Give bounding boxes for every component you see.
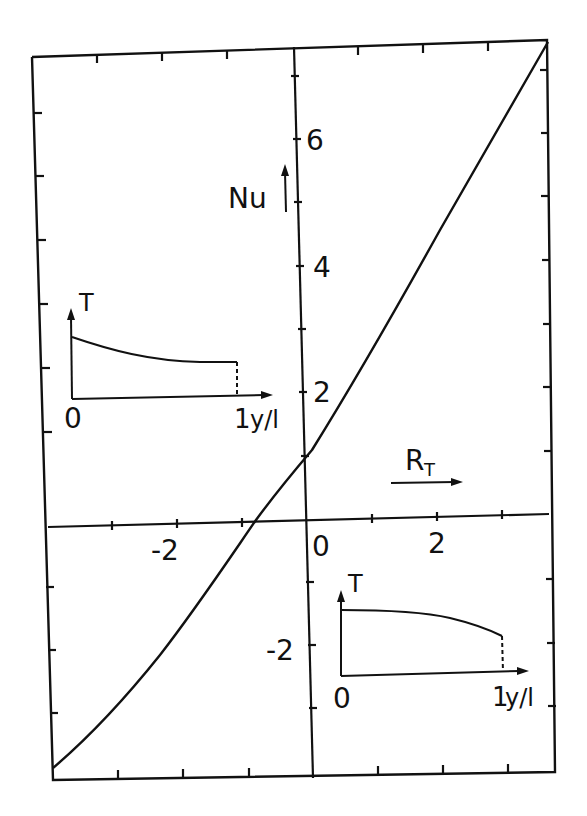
inset-lr-y-arrow-icon bbox=[337, 590, 345, 602]
y-tick-4: 4 bbox=[313, 251, 331, 284]
nu-arrow-icon bbox=[281, 164, 289, 212]
inset-lower-right: T 0 1 y/l bbox=[333, 570, 534, 715]
y-axis-label: Nu bbox=[228, 182, 267, 215]
x-tick-0: 0 bbox=[312, 530, 330, 563]
plot-frame bbox=[32, 40, 555, 780]
svg-text:y/l: y/l bbox=[250, 406, 279, 434]
y-tick-2: 2 bbox=[313, 376, 331, 409]
x-tick-2: 2 bbox=[428, 527, 446, 560]
nu-curve bbox=[53, 42, 548, 768]
x-axis bbox=[48, 510, 549, 530]
left-ticks bbox=[34, 113, 58, 713]
svg-text:R: R bbox=[405, 444, 424, 477]
svg-text:T: T bbox=[423, 459, 436, 480]
svg-text:y/l: y/l bbox=[505, 684, 534, 712]
x-tick-neg2: -2 bbox=[151, 534, 179, 567]
inset-lr-x-arrow-icon bbox=[517, 667, 529, 675]
nusselt-chart: 6 4 2 -2 -2 0 2 Nu R T T 0 1 y/l bbox=[0, 0, 587, 816]
svg-text:T: T bbox=[78, 289, 94, 317]
y-tick-6: 6 bbox=[306, 124, 324, 157]
x-axis-label: R T bbox=[405, 444, 436, 480]
inset-ul-y-arrow-icon bbox=[67, 308, 75, 320]
svg-text:0: 0 bbox=[64, 402, 82, 435]
svg-text:1: 1 bbox=[234, 404, 251, 434]
inset-ul-x-arrow-icon bbox=[261, 391, 273, 399]
svg-text:0: 0 bbox=[333, 682, 351, 715]
svg-text:T: T bbox=[347, 570, 363, 598]
y-tick-neg2: -2 bbox=[266, 634, 294, 667]
inset-upper-left: T 0 1 y/l bbox=[64, 289, 279, 435]
